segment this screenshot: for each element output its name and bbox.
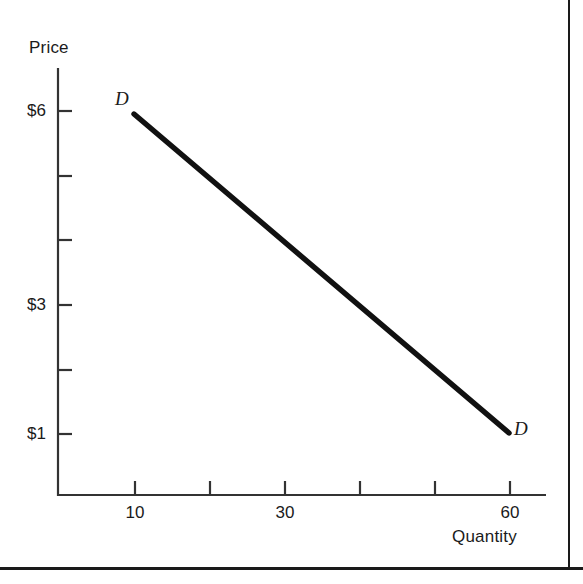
y-axis-ticks xyxy=(58,111,72,434)
x-tick-label-60: 60 xyxy=(488,503,532,523)
demand-curve-figure: Price Quantity $6 $3 $1 10 30 60 D D xyxy=(0,0,583,584)
x-axis-ticks xyxy=(135,481,510,495)
x-tick-label-10: 10 xyxy=(113,503,157,523)
y-tick-label-3: $3 xyxy=(12,295,46,315)
x-tick-label-30: 30 xyxy=(263,503,307,523)
x-axis-title: Quantity xyxy=(452,527,517,547)
demand-curve-label-bottom: D xyxy=(514,418,528,440)
demand-curve-plot xyxy=(0,0,583,584)
y-axis-title: Price xyxy=(29,38,69,58)
demand-curve-line xyxy=(134,114,509,433)
y-tick-label-1: $1 xyxy=(12,424,46,444)
y-tick-label-6: $6 xyxy=(12,101,46,121)
demand-curve-label-top: D xyxy=(115,88,129,110)
